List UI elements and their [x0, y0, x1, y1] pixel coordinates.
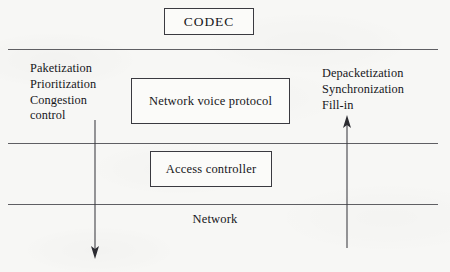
network-layer-label: Network	[0, 212, 430, 227]
access-controller-box: Access controller	[150, 151, 272, 187]
access-controller-box-label: Access controller	[166, 162, 257, 177]
network-voice-protocol-box-label: Network voice protocol	[149, 94, 272, 109]
access-to-network-rule	[8, 204, 438, 205]
paper-grain-texture	[0, 0, 450, 272]
protocol-to-access-rule	[8, 143, 438, 144]
egress-functions-label: Depacketization Synchronization Fill-in	[322, 66, 404, 113]
codec-box: CODEC	[164, 8, 254, 35]
codec-box-label: CODEC	[184, 14, 234, 30]
upstream-flow-arrow	[343, 115, 351, 248]
ingress-functions-label: Paketization Prioritization Congestion c…	[30, 61, 96, 124]
codec-to-protocol-rule	[8, 49, 438, 50]
downstream-flow-arrow	[91, 120, 99, 259]
network-voice-protocol-box: Network voice protocol	[131, 78, 290, 124]
flow-arrow-layer	[0, 0, 450, 272]
packet-voice-protocol-diagram: CODEC Network voice protocol Access cont…	[0, 0, 450, 272]
